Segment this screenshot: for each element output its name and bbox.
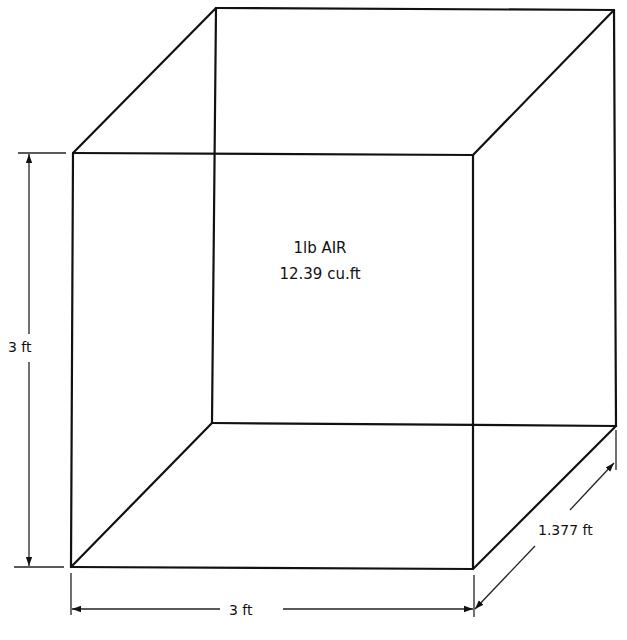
depth-dimension	[475, 430, 616, 609]
depth-edges	[71, 8, 616, 569]
width-dimension	[71, 573, 474, 617]
depth-label: 1.377 ft	[538, 522, 593, 538]
height-dimension	[14, 153, 66, 567]
mass-label: 1lb AIR	[293, 239, 346, 257]
volume-label: 12.39 cu.ft	[279, 265, 360, 283]
cube-diagram: 1lb AIR 12.39 cu.ft 3 ft 3 ft 1.377 ft	[0, 0, 627, 640]
width-label: 3 ft	[229, 602, 253, 618]
height-label: 3 ft	[8, 339, 32, 355]
